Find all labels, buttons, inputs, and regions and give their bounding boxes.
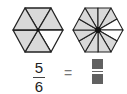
left-numerator: 5 (33, 60, 45, 76)
right-fraction-placeholder[interactable] (92, 59, 103, 84)
right-hexagon-twelfths (72, 7, 124, 53)
numerator-placeholder[interactable] (92, 59, 103, 69)
left-denominator: 6 (33, 79, 45, 94)
equals-sign: = (64, 65, 72, 81)
fraction-bar (92, 71, 103, 72)
left-fraction: 5 6 (33, 60, 45, 94)
denominator-placeholder[interactable] (92, 74, 103, 84)
left-hexagon-sixths (12, 7, 64, 53)
